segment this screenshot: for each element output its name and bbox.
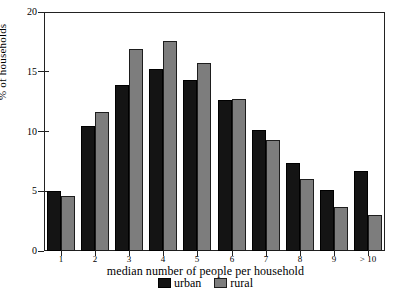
- bar-rural-6: [232, 99, 246, 251]
- legend-item-urban: urban: [158, 277, 201, 289]
- y-axis-title: % of households: [0, 0, 8, 100]
- bar-rural-4: [163, 41, 177, 251]
- y-tick-label: 20: [13, 7, 37, 17]
- legend-label-urban: urban: [174, 277, 201, 289]
- chart-legend: urban rural: [0, 277, 411, 289]
- bar-urban-7: [252, 130, 266, 251]
- legend-item-rural: rural: [214, 277, 253, 289]
- y-tick-mark: [38, 251, 44, 252]
- bar-rural-5: [197, 63, 211, 251]
- bar-urban-9: [320, 190, 334, 251]
- bar-rural-2: [95, 112, 109, 251]
- bar-urban-1: [47, 191, 61, 251]
- y-tick-mark-inner: [44, 131, 49, 132]
- bar-rural-7: [266, 140, 280, 251]
- legend-swatch-rural: [214, 278, 227, 288]
- legend-label-rural: rural: [230, 277, 253, 289]
- legend-swatch-urban: [158, 278, 171, 288]
- y-tick-label: 15: [13, 67, 37, 77]
- bar-chart-figure: % of households 05101520 123456789> 10 m…: [0, 0, 411, 296]
- y-tick-label: 10: [13, 127, 37, 137]
- bar-urban-4: [149, 69, 163, 251]
- bar-urban-5: [183, 80, 197, 251]
- bar-rural-8: [300, 179, 314, 251]
- y-tick-mark: [38, 12, 44, 13]
- bar-urban-3: [115, 85, 129, 251]
- y-tick-label: 5: [13, 186, 37, 196]
- bar-urban-10: [354, 171, 368, 251]
- bar-urban-2: [81, 126, 95, 251]
- bar-urban-8: [286, 163, 300, 251]
- bar-rural-9: [334, 207, 348, 251]
- bar-rural-10: [368, 215, 382, 251]
- bar-rural-3: [129, 49, 143, 251]
- bar-urban-6: [218, 100, 232, 251]
- y-tick-label: 0: [13, 246, 37, 256]
- bar-rural-1: [61, 196, 75, 251]
- y-tick-mark-inner: [44, 71, 49, 72]
